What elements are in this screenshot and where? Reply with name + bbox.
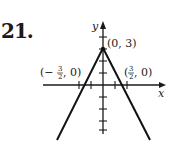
svg-text:(−: (−: [40, 66, 54, 79]
svg-text:3: 3: [58, 65, 62, 73]
svg-text:3: 3: [129, 65, 133, 73]
right-branch-line: [103, 48, 150, 140]
svg-text:2: 2: [129, 73, 133, 81]
right-intercept-label: ( 3 2 , 0): [124, 65, 152, 81]
y-axis-label: y: [91, 20, 99, 33]
y-axis-arrow-icon: [100, 21, 106, 29]
apex-point: [101, 47, 105, 51]
graph: y x (0, 3) (− 3 2 , 0) ( 3 2 , 0): [0, 0, 181, 157]
svg-text:(: (: [124, 66, 128, 79]
svg-text:, 0): , 0): [63, 66, 81, 79]
left-intercept-label: (− 3 2 , 0): [40, 65, 81, 81]
left-branch-line: [57, 48, 103, 140]
x-axis-label: x: [158, 87, 165, 100]
svg-text:, 0): , 0): [134, 66, 152, 79]
svg-text:2: 2: [58, 73, 62, 81]
apex-label: (0, 3): [107, 37, 137, 50]
